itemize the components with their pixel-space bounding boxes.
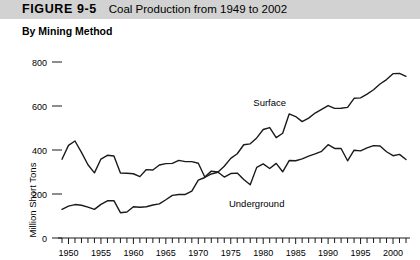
series-group	[62, 73, 406, 212]
x-tick-label: 1980	[253, 248, 273, 258]
x-tick-label: 1950	[58, 248, 78, 258]
x-tick-label: 1995	[351, 248, 371, 258]
x-axis-group: 1950195519601965197019751980198519901995…	[58, 238, 410, 258]
chart-plot-area: Million Short Tons 0200400600800 1950195…	[0, 0, 420, 260]
y-tick-label: 200	[32, 190, 47, 200]
x-tick-label: 1965	[156, 248, 176, 258]
y-axis-group: Million Short Tons 0200400600800	[27, 58, 62, 244]
x-tick-label: 1970	[188, 248, 208, 258]
y-tick-label: 600	[32, 102, 47, 112]
series-label-surface: Surface	[253, 97, 286, 108]
y-tick-label: 0	[42, 234, 47, 244]
y-tick-label: 800	[32, 58, 47, 68]
x-tick-label: 1990	[318, 248, 338, 258]
x-tick-group	[62, 238, 406, 244]
x-tick-label: 1975	[221, 248, 241, 258]
y-axis-title: Million Short Tons	[27, 162, 38, 237]
x-tick-label: 2000	[383, 248, 403, 258]
y-tick-label: 400	[32, 146, 47, 156]
x-tick-label: 1985	[286, 248, 306, 258]
x-tick-label: 1960	[123, 248, 143, 258]
series-line-underground	[62, 141, 406, 185]
line-chart-svg: Million Short Tons 0200400600800 1950195…	[0, 0, 420, 260]
series-label-underground: Underground	[229, 198, 284, 209]
series-line-surface	[62, 73, 406, 212]
x-tick-label-group: 1950195519601965197019751980198519901995…	[58, 248, 403, 258]
figure-container: FIGURE 9-5 Coal Production from 1949 to …	[0, 0, 420, 260]
x-tick-label: 1955	[91, 248, 111, 258]
